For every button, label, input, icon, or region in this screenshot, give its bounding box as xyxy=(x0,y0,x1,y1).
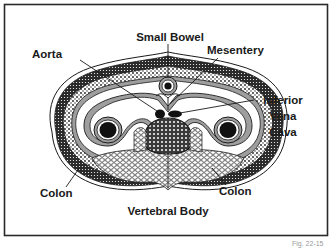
inferior-vena-cava xyxy=(168,111,182,118)
label-colon-right: Colon xyxy=(219,185,252,198)
label-small-bowel: Small Bowel xyxy=(136,31,204,44)
left-colon-section xyxy=(94,117,122,143)
label-vertebral-body: Vertebral Body xyxy=(127,205,208,218)
diagram-figure: Small Bowel Aorta Mesentery Inferior Ven… xyxy=(0,0,336,248)
right-colon-section xyxy=(214,117,242,143)
figure-caption: Fig. 22-15 xyxy=(292,240,324,247)
small-bowel xyxy=(159,77,177,95)
label-mesentery: Mesentery xyxy=(207,44,264,57)
label-colon-left: Colon xyxy=(40,187,73,200)
label-inferior: Inferior xyxy=(263,94,303,107)
label-aorta: Aorta xyxy=(32,48,62,61)
label-vena: Vena xyxy=(270,110,297,123)
label-cava: Cava xyxy=(269,126,297,139)
